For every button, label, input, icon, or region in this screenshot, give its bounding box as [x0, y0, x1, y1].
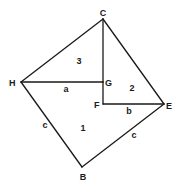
vertex-label-f: F: [94, 100, 100, 110]
edge-label-c-right: c: [131, 130, 136, 140]
edge-label-c-left: c: [42, 120, 47, 130]
vertex-label-g: G: [105, 78, 112, 88]
vertex-label-h: H: [9, 78, 16, 88]
edge-label-a: a: [63, 84, 69, 94]
vertex-label-e: E: [166, 101, 172, 111]
region-label-2: 2: [129, 83, 134, 93]
edge-label-b: b: [126, 106, 132, 116]
edge-h-b: [21, 82, 82, 167]
vertex-label-b: B: [80, 172, 87, 182]
region-label-3: 3: [76, 56, 81, 66]
vertex-label-c: C: [100, 8, 107, 18]
edge-c-h: [21, 19, 103, 82]
geometry-diagram: C H G F E B a b c c 3 2 1: [0, 0, 183, 193]
edge-b-e: [82, 104, 164, 167]
region-label-1: 1: [80, 123, 85, 133]
